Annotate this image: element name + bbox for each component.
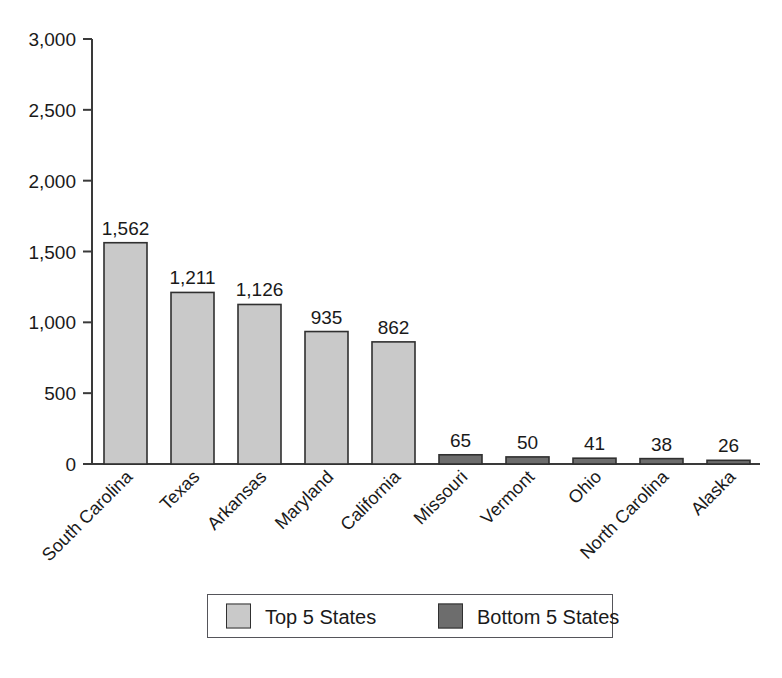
bar-value-label: 38 <box>651 434 672 455</box>
legend-swatch-icon <box>226 604 251 629</box>
bar <box>104 243 147 464</box>
legend-item: Bottom 5 States <box>438 604 619 629</box>
bar-value-label: 1,126 <box>236 279 284 300</box>
x-axis-category-label: South Carolina <box>38 466 137 565</box>
bar-chart: 05001,0001,5002,0002,5003,000 1,5621,211… <box>0 0 782 678</box>
chart-legend: Top 5 StatesBottom 5 States <box>207 594 613 638</box>
bar-value-label: 1,211 <box>169 267 215 288</box>
y-axis-tick-label: 2,500 <box>28 100 76 121</box>
y-axis-tick-label: 1,000 <box>28 312 76 333</box>
x-axis-category-label: Texas <box>156 467 203 514</box>
legend-label: Top 5 States <box>265 606 376 626</box>
bar <box>305 332 348 464</box>
y-axis-tick-label: 0 <box>65 454 76 475</box>
y-axis-tick-label: 500 <box>44 383 76 404</box>
x-axis-category-label: California <box>336 466 405 535</box>
bar-value-label: 1,562 <box>102 218 150 239</box>
x-axis-category-label: Vermont <box>477 467 539 529</box>
bar <box>171 292 214 464</box>
bar <box>573 458 616 464</box>
x-axis-category-label: Arkansas <box>203 467 270 534</box>
x-axis-category-label: Ohio <box>564 467 605 508</box>
chart-plot-area: 05001,0001,5002,0002,5003,000 1,5621,211… <box>0 0 782 678</box>
bar <box>707 460 750 464</box>
y-axis-tick-labels: 05001,0001,5002,0002,5003,000 <box>28 29 76 475</box>
y-axis-tick-marks <box>83 39 92 464</box>
bar <box>238 304 281 464</box>
bar <box>640 459 683 464</box>
x-axis-category-label: Alaska <box>687 466 740 519</box>
bar-value-label: 41 <box>584 433 605 454</box>
y-axis-tick-label: 1,500 <box>28 242 76 263</box>
x-axis-category-labels: South CarolinaTexasArkansasMarylandCalif… <box>38 466 740 565</box>
legend-label: Bottom 5 States <box>477 606 619 626</box>
bar-value-label: 862 <box>378 317 410 338</box>
x-axis-category-label: Missouri <box>410 467 472 529</box>
bar-value-label: 50 <box>517 432 538 453</box>
y-axis-tick-label: 3,000 <box>28 29 76 50</box>
bar-value-label: 65 <box>450 430 471 451</box>
bar-value-label: 26 <box>718 435 739 456</box>
bar <box>439 455 482 464</box>
x-axis-category-label: Maryland <box>271 467 337 533</box>
bar-value-label: 935 <box>311 307 343 328</box>
legend-swatch-icon <box>438 604 463 629</box>
legend-item: Top 5 States <box>226 604 376 629</box>
bar <box>506 457 549 464</box>
bar <box>372 342 415 464</box>
y-axis-tick-label: 2,000 <box>28 171 76 192</box>
